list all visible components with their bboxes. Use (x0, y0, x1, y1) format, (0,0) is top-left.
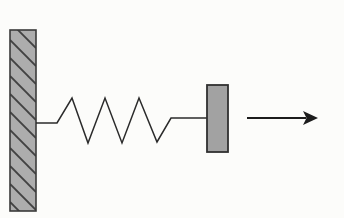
wall-fill (10, 30, 36, 211)
physics-diagram (0, 0, 344, 218)
diagram-background (0, 0, 344, 218)
mass-block (207, 85, 228, 152)
physics-diagram-svg (0, 0, 344, 218)
